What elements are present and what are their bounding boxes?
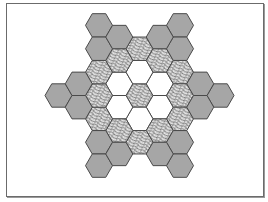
hex-board (0, 0, 268, 202)
hex-tiles (45, 14, 234, 178)
